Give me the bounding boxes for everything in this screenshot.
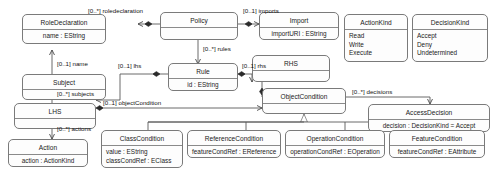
- class-title: FeatureCondition: [390, 131, 484, 146]
- class-attributes: [263, 104, 345, 113]
- class-title: ReferenceCondition: [188, 131, 280, 146]
- class-Action[interactable]: Action action : ActionKind: [8, 139, 88, 167]
- edge-label-objectcondition: [0..1] objectCondition: [103, 99, 161, 106]
- enumeration-ActionKind[interactable]: ActionKind Read Write Execute: [344, 14, 408, 62]
- edge-label-subjects: [0..*] subjects: [57, 90, 94, 97]
- attribute: featureCondRef : EAttribute: [394, 148, 480, 157]
- enumeration-DecisionKind[interactable]: DecisionKind Accept Deny Undetermined: [412, 14, 488, 62]
- class-ClassCondition[interactable]: ClassCondition value : EString classCond…: [101, 130, 183, 168]
- edge-label-decisions: [0..*] decisions: [352, 88, 392, 95]
- edge-label-name: [0..1] name: [57, 60, 88, 67]
- enumeration-literals: Accept Deny Undetermined: [413, 30, 487, 59]
- class-attributes: [253, 71, 329, 80]
- class-ReferenceCondition[interactable]: ReferenceCondition featureCondRef : ERef…: [187, 130, 281, 158]
- enum-literal: Accept: [417, 32, 483, 41]
- edge-label-rhs: [0..1] rhs: [242, 62, 266, 69]
- class-OperationCondition[interactable]: OperationCondition operationCondRef : EO…: [285, 130, 385, 158]
- enumeration-literals: Read Write Execute: [345, 30, 407, 59]
- class-title: Policy: [161, 13, 237, 28]
- class-attributes: value : EString classCondRef : EClass: [102, 146, 182, 166]
- enum-literal: Deny: [417, 41, 483, 50]
- enum-literal: Write: [349, 41, 403, 50]
- class-title: Subject: [23, 75, 105, 90]
- uml-class-diagram-canvas: RoleDeclaration name : EString Subject L…: [0, 0, 494, 177]
- enum-literal: Undetermined: [417, 49, 483, 58]
- edge-label-roledeclaration: [0..*] roledeclaration: [88, 7, 143, 14]
- enumeration-title: DecisionKind: [413, 15, 487, 30]
- class-Policy[interactable]: Policy: [160, 12, 238, 40]
- edge-label-rules: [0..*] rules: [203, 45, 231, 52]
- attribute: importURI : EString: [264, 30, 334, 39]
- class-title: OperationCondition: [286, 131, 384, 146]
- association-lhs: [96, 74, 168, 100]
- class-ObjectCondition[interactable]: ObjectCondition: [262, 88, 346, 114]
- enum-literal: Execute: [349, 49, 403, 58]
- attribute: operationCondRef : EOperation: [290, 148, 380, 157]
- class-title: ClassCondition: [102, 131, 182, 146]
- class-attributes: [161, 28, 237, 37]
- class-attributes: operationCondRef : EOperation: [286, 146, 384, 158]
- class-title: Rule: [169, 64, 237, 79]
- class-attributes: name : EString: [23, 30, 105, 42]
- edge-label-actions: [0..*] actions: [57, 125, 91, 132]
- class-title: RoleDeclaration: [23, 15, 105, 30]
- class-attributes: featureCondRef : EReference: [188, 146, 280, 158]
- attribute: name : EString: [27, 32, 101, 41]
- class-Import[interactable]: Import importURI : EString: [259, 12, 339, 40]
- attribute: featureCondRef : EReference: [192, 148, 276, 157]
- class-Rule[interactable]: Rule id : EString: [168, 63, 238, 91]
- class-attributes: featureCondRef : EAttribute: [390, 146, 484, 158]
- class-title: AccessDecision: [369, 105, 489, 120]
- class-title: Import: [260, 13, 338, 28]
- class-title: LHS: [15, 104, 95, 119]
- attribute: value : EString: [106, 148, 178, 157]
- class-attributes: action : ActionKind: [9, 155, 87, 167]
- class-title: Action: [9, 140, 87, 155]
- attribute: action : ActionKind: [13, 157, 83, 166]
- class-title: ObjectCondition: [263, 89, 345, 104]
- class-AccessDecision[interactable]: AccessDecision decision : DecisionKind =…: [368, 104, 490, 132]
- enum-literal: Read: [349, 32, 403, 41]
- attribute: classCondRef : EClass: [106, 157, 178, 166]
- enumeration-title: ActionKind: [345, 15, 407, 30]
- class-attributes: id : EString: [169, 79, 237, 91]
- edge-label-lhs: [0..1] lhs: [118, 62, 141, 69]
- edge-label-imports: [0..1] imports: [243, 7, 279, 14]
- attribute: id : EString: [173, 81, 233, 90]
- class-attributes: importURI : EString: [260, 28, 338, 40]
- class-FeatureCondition[interactable]: FeatureCondition featureCondRef : EAttri…: [389, 130, 485, 158]
- class-RoleDeclaration[interactable]: RoleDeclaration name : EString: [22, 14, 106, 44]
